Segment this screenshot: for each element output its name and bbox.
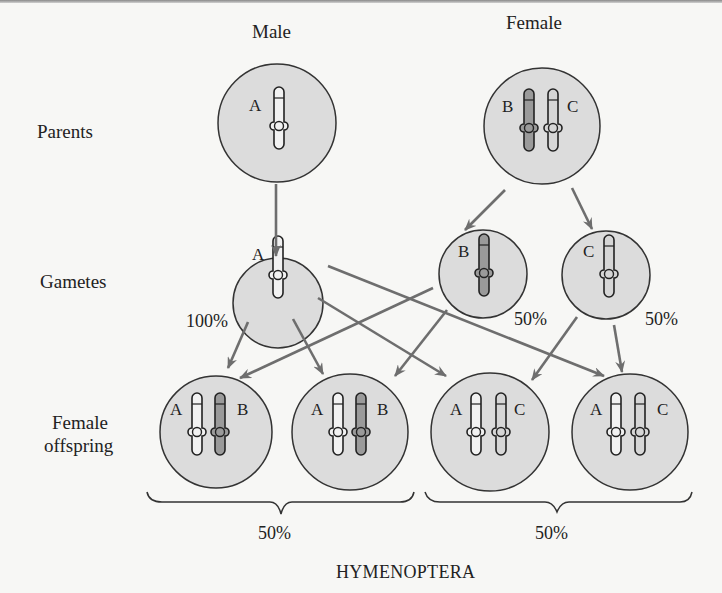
brace-AB-group	[147, 492, 414, 514]
gametes-row-label: Gametes	[40, 272, 106, 292]
gamete-cell-A	[233, 236, 323, 348]
female-label: Female	[506, 13, 562, 33]
offspring-3-allele-A: A	[450, 401, 462, 419]
offspring-1-allele-B: B	[237, 401, 248, 419]
brace-AC-group	[425, 492, 692, 512]
gamete-allele-A: A	[252, 246, 264, 264]
offspring-cell-3	[431, 373, 549, 491]
arrow-female-to-gamete-B	[465, 190, 505, 230]
offspring-2-allele-A: A	[311, 401, 323, 419]
gamete-allele-B: B	[458, 243, 469, 261]
male-label: Male	[252, 22, 291, 42]
offspring-row-label-line2: offspring	[44, 436, 113, 456]
offspring-2-allele-B: B	[377, 401, 388, 419]
arrow-female-to-gamete-C	[572, 188, 592, 229]
gamete-B-frequency: 50%	[514, 310, 547, 329]
offspring-3-allele-C: C	[514, 401, 525, 419]
inheritance-diagram	[0, 0, 722, 593]
male-parent-allele-A: A	[249, 97, 261, 115]
offspring-cell-1	[160, 376, 272, 488]
parents-row-label: Parents	[37, 122, 93, 142]
female-parent-allele-C: C	[567, 98, 578, 116]
gamete-A-frequency: 100%	[186, 312, 228, 331]
male-parent-cell	[218, 64, 336, 182]
offspring-4-allele-C: C	[657, 401, 668, 419]
gamete-allele-C: C	[583, 243, 594, 261]
offspring-row-label-line1: Female	[52, 413, 108, 433]
gamete-cell-B	[439, 230, 527, 318]
offspring-4-allele-A: A	[590, 401, 602, 419]
offspring-1-allele-A: A	[170, 401, 182, 419]
offspring-AB-frequency: 50%	[258, 524, 291, 543]
gamete-C-frequency: 50%	[645, 310, 678, 329]
female-parent-allele-B: B	[502, 98, 513, 116]
female-parent-cell	[484, 68, 600, 184]
diagram-title: HYMENOPTERA	[336, 563, 475, 582]
arrow-C-to-offspring-4	[614, 325, 622, 372]
arrow-A-to-offspring-1	[228, 322, 248, 368]
arrow-B-to-offspring-2	[395, 310, 447, 376]
offspring-AC-frequency: 50%	[535, 524, 568, 543]
offspring-cell-2	[292, 374, 408, 490]
offspring-cell-4	[572, 374, 688, 490]
gamete-cell-C	[562, 231, 650, 319]
